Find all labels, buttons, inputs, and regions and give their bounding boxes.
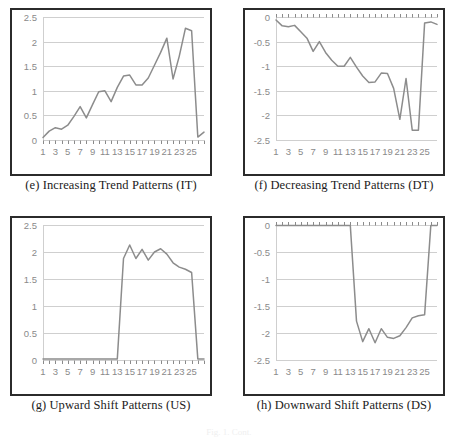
svg-text:7: 7 [78, 366, 83, 377]
svg-text:15: 15 [124, 146, 135, 157]
svg-text:21: 21 [162, 366, 173, 377]
svg-text:25: 25 [419, 366, 430, 377]
svg-text:1.5: 1.5 [24, 274, 37, 285]
svg-text:19: 19 [382, 146, 393, 157]
svg-text:-0.5: -0.5 [254, 37, 270, 48]
svg-text:9: 9 [90, 366, 95, 377]
svg-text:17: 17 [137, 146, 148, 157]
svg-text:0: 0 [32, 135, 37, 146]
panel-g: 00.511.522.5135791113151719212325 (g) Up… [10, 216, 212, 414]
svg-text:25: 25 [186, 366, 197, 377]
svg-text:11: 11 [333, 146, 343, 157]
svg-text:-2: -2 [262, 110, 270, 121]
svg-text:11: 11 [100, 366, 110, 377]
svg-text:21: 21 [395, 366, 406, 377]
svg-text:0.5: 0.5 [24, 328, 37, 339]
svg-text:23: 23 [174, 146, 185, 157]
svg-text:17: 17 [137, 366, 148, 377]
svg-text:7: 7 [78, 146, 83, 157]
svg-text:7: 7 [311, 146, 316, 157]
svg-text:2: 2 [32, 247, 37, 258]
svg-text:3: 3 [53, 146, 58, 157]
svg-text:-2.5: -2.5 [254, 355, 270, 366]
svg-text:19: 19 [149, 366, 160, 377]
svg-text:17: 17 [370, 366, 381, 377]
figure-note: Fig. 1. Cont. [0, 427, 458, 437]
svg-text:5: 5 [65, 366, 70, 377]
svg-text:9: 9 [323, 146, 328, 157]
svg-text:1: 1 [273, 146, 278, 157]
svg-text:13: 13 [112, 366, 123, 377]
panel-h-caption: (h) Downward Shift Patterns (DS) [243, 398, 445, 413]
svg-text:-1: -1 [262, 61, 270, 72]
svg-text:21: 21 [395, 146, 406, 157]
svg-text:5: 5 [65, 146, 70, 157]
panel-g-plot: 00.511.522.5135791113151719212325 [10, 216, 212, 396]
svg-text:15: 15 [124, 366, 135, 377]
svg-text:5: 5 [298, 366, 303, 377]
panel-e-plot: 00.511.522.5135791113151719212325 [10, 8, 212, 176]
svg-text:13: 13 [112, 146, 123, 157]
svg-text:3: 3 [53, 366, 58, 377]
svg-text:15: 15 [357, 366, 368, 377]
svg-text:11: 11 [333, 366, 343, 377]
svg-text:9: 9 [323, 366, 328, 377]
panel-e-caption: (e) Increasing Trend Patterns (IT) [10, 178, 212, 193]
panel-f-plot: 0-0.5-1-1.5-2-2.5135791113151719212325 [243, 8, 445, 176]
svg-text:19: 19 [382, 366, 393, 377]
svg-text:-0.5: -0.5 [254, 247, 270, 258]
panel-h: 0-0.5-1-1.5-2-2.5135791113151719212325 (… [243, 216, 445, 414]
panel-f: 0-0.5-1-1.5-2-2.5135791113151719212325 (… [243, 8, 445, 196]
svg-text:0: 0 [265, 12, 270, 23]
svg-text:23: 23 [174, 366, 185, 377]
figure-panel-grid: 00.511.522.5135791113151719212325 (e) In… [0, 0, 458, 438]
svg-text:1: 1 [32, 86, 37, 97]
svg-text:1: 1 [273, 366, 278, 377]
svg-text:1: 1 [40, 366, 45, 377]
svg-text:-2: -2 [262, 328, 270, 339]
svg-text:23: 23 [407, 146, 418, 157]
svg-text:2: 2 [32, 37, 37, 48]
svg-text:3: 3 [286, 146, 291, 157]
svg-text:5: 5 [298, 146, 303, 157]
svg-text:19: 19 [149, 146, 160, 157]
svg-text:25: 25 [186, 146, 197, 157]
svg-text:-1: -1 [262, 274, 270, 285]
svg-text:9: 9 [90, 146, 95, 157]
svg-text:0: 0 [265, 220, 270, 231]
svg-text:13: 13 [345, 146, 356, 157]
svg-text:17: 17 [370, 146, 381, 157]
svg-text:13: 13 [345, 366, 356, 377]
svg-text:25: 25 [419, 146, 430, 157]
svg-text:2.5: 2.5 [24, 12, 37, 23]
svg-text:-2.5: -2.5 [254, 135, 270, 146]
svg-text:7: 7 [311, 366, 316, 377]
svg-text:-1.5: -1.5 [254, 86, 270, 97]
panel-h-plot: 0-0.5-1-1.5-2-2.5135791113151719212325 [243, 216, 445, 396]
panel-e: 00.511.522.5135791113151719212325 (e) In… [10, 8, 212, 196]
svg-text:1: 1 [32, 301, 37, 312]
svg-text:15: 15 [357, 146, 368, 157]
svg-text:21: 21 [162, 146, 173, 157]
svg-text:1.5: 1.5 [24, 61, 37, 72]
svg-text:23: 23 [407, 366, 418, 377]
svg-text:3: 3 [286, 366, 291, 377]
svg-text:11: 11 [100, 146, 110, 157]
svg-text:1: 1 [40, 146, 45, 157]
panel-g-caption: (g) Upward Shift Patterns (US) [10, 398, 212, 413]
svg-text:0: 0 [32, 355, 37, 366]
svg-text:-1.5: -1.5 [254, 301, 270, 312]
svg-text:2.5: 2.5 [24, 220, 37, 231]
panel-f-caption: (f) Decreasing Trend Patterns (DT) [243, 178, 445, 193]
svg-text:0.5: 0.5 [24, 110, 37, 121]
